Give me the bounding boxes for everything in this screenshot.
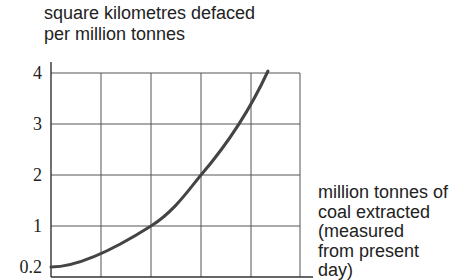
x-axis-label-line-4: from present (318, 242, 448, 262)
x-axis-label: million tonnes of coal extracted (measur… (318, 183, 448, 280)
x-axis-label-line-2: coal extracted (318, 203, 448, 223)
x-axis-label-line-5: day) (318, 261, 448, 280)
data-curve (51, 71, 268, 267)
grid (51, 73, 300, 277)
x-axis-label-line-3: (measured (318, 222, 448, 242)
x-axis-label-line-1: million tonnes of (318, 183, 448, 203)
axes (51, 62, 313, 277)
